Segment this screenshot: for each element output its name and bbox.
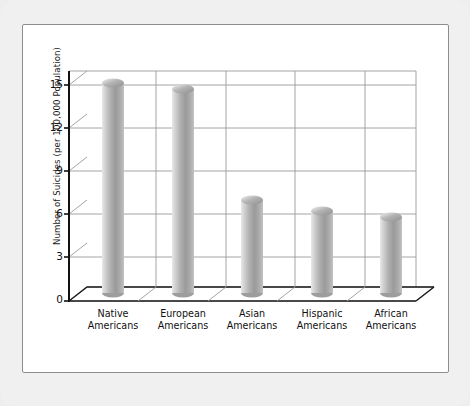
x-category-african-americans-line2: Americans — [354, 320, 428, 332]
page-root: Number of Suicides (per 100,000 Populati… — [0, 0, 470, 406]
bar-european-americans[interactable] — [172, 85, 194, 298]
figure-card: Number of Suicides (per 100,000 Populati… — [22, 24, 449, 373]
bar-chart: Number of Suicides (per 100,000 Populati… — [23, 25, 450, 374]
x-category-european-americans: European Americans — [146, 308, 220, 332]
x-category-native-americans-line2: Americans — [76, 320, 150, 332]
x-category-asian-americans-line2: Americans — [215, 320, 289, 332]
bar-hispanic-americans[interactable] — [311, 207, 333, 298]
x-category-asian-americans: Asian Americans — [215, 308, 289, 332]
x-category-african-americans: African Americans — [354, 308, 428, 332]
x-category-european-americans-line1: European — [146, 308, 220, 320]
x-category-african-americans-line1: African — [354, 308, 428, 320]
x-category-hispanic-americans-line1: Hispanic — [285, 308, 359, 320]
x-category-european-americans-line2: Americans — [146, 320, 220, 332]
bar-native-americans[interactable] — [102, 79, 124, 298]
bar-asian-americans[interactable] — [241, 196, 263, 298]
x-category-hispanic-americans: Hispanic Americans — [285, 308, 359, 332]
bar-african-americans[interactable] — [380, 213, 402, 298]
x-category-native-americans: Native Americans — [76, 308, 150, 332]
x-category-asian-americans-line1: Asian — [215, 308, 289, 320]
x-category-native-americans-line1: Native — [76, 308, 150, 320]
x-category-hispanic-americans-line2: Americans — [285, 320, 359, 332]
